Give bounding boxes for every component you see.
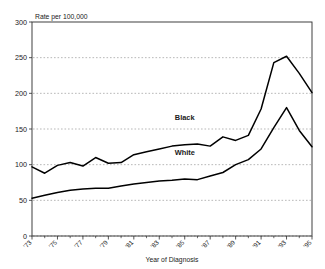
x-tick-label-83: '83	[149, 238, 160, 249]
y-axis-tick-labels: 050100150200250300	[15, 18, 27, 241]
x-tick-label-93: '93	[276, 238, 287, 249]
y-tick-label-50: 50	[19, 196, 27, 205]
x-tick-label-87: '87	[200, 238, 211, 249]
x-axis-title: Year of Diagnosis	[145, 256, 199, 264]
line-chart: 050100150200250300 '73'75'77'79'81'83'85…	[0, 0, 325, 269]
x-tick-label-91: '91	[251, 238, 262, 249]
y-tick-label-150: 150	[15, 125, 27, 134]
y-axis-unit-label: Rate per 100,000	[35, 13, 88, 21]
series-line-black	[32, 56, 312, 173]
y-tick-label-200: 200	[15, 89, 27, 98]
x-tick-label-79: '79	[98, 238, 109, 249]
x-tick-label-81: '81	[124, 238, 135, 249]
plot-frame	[32, 22, 312, 236]
x-tick-label-95: '95	[302, 238, 313, 249]
x-tick-label-77: '77	[73, 238, 84, 249]
series-annotations: BlackWhite	[175, 113, 196, 157]
x-tick-label-89: '89	[225, 238, 236, 249]
series-line-white	[32, 108, 312, 199]
series-label-black: Black	[175, 113, 196, 122]
y-tick-label-300: 300	[15, 18, 27, 27]
chart-container: 050100150200250300 '73'75'77'79'81'83'85…	[0, 0, 325, 269]
x-axis-ticks	[32, 236, 312, 240]
x-tick-label-75: '75	[47, 238, 58, 249]
y-tick-label-100: 100	[15, 160, 27, 169]
data-series	[32, 56, 312, 198]
x-axis-tick-labels: '73'75'77'79'81'83'85'87'89'91'93'95	[22, 238, 313, 249]
x-tick-label-85: '85	[175, 238, 186, 249]
series-label-white: White	[175, 148, 195, 157]
y-tick-label-250: 250	[15, 53, 27, 62]
